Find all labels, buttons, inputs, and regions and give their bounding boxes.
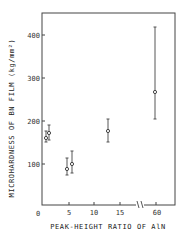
x-tick-10: 10 bbox=[90, 209, 98, 217]
x-tick-5: 5 bbox=[67, 209, 71, 217]
y-axis-title: MICROHARDNESS OF BN FILM (kg/mm²) bbox=[8, 39, 16, 198]
x-tick-60: 60 bbox=[153, 209, 161, 217]
x-axis-title: PEAK-HEIGHT RATIO OF AlN bbox=[50, 223, 166, 231]
y-tick-200: 200 bbox=[27, 118, 40, 126]
y-tick-300: 300 bbox=[27, 75, 40, 83]
y-tick-400: 400 bbox=[27, 32, 40, 40]
data-point bbox=[65, 158, 68, 175]
x-tick-15: 15 bbox=[116, 209, 124, 217]
data-point bbox=[106, 119, 109, 142]
y-tick-100: 100 bbox=[27, 161, 40, 169]
data-point bbox=[70, 151, 73, 173]
data-point bbox=[153, 27, 156, 119]
y-tick-0: 0 bbox=[36, 210, 40, 218]
chart: 400 300 200 100 0 5 10 15 60 PEAK-HEIGHT… bbox=[0, 0, 186, 240]
y-axis-tick-labels: 400 300 200 100 0 bbox=[27, 32, 40, 219]
data-series bbox=[44, 27, 156, 175]
x-axis-tick-labels: 5 10 15 60 bbox=[67, 209, 161, 217]
